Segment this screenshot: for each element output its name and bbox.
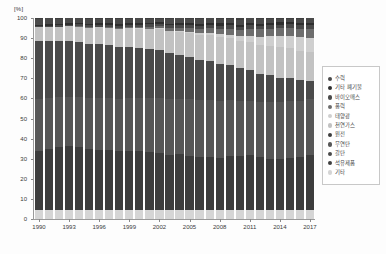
- legend-swatch-icon: [328, 142, 332, 146]
- legend-item-label: 갈탄: [335, 151, 345, 156]
- legend-item[interactable]: 풍력: [328, 102, 375, 111]
- x-axis-tick-label: 2017: [295, 224, 325, 230]
- legend-swatch-icon: [328, 170, 332, 174]
- x-axis-tick-mark: [39, 219, 40, 222]
- legend-item-label: 석유제품: [335, 161, 355, 166]
- legend-swatch-icon: [328, 161, 332, 165]
- legend-item-label: 원전: [335, 132, 345, 137]
- legend-item[interactable]: 바이오매스: [328, 93, 375, 102]
- x-axis-tick-mark: [69, 219, 70, 222]
- legend-swatch-icon: [328, 133, 332, 137]
- x-axis-tick-mark: [250, 219, 251, 222]
- x-axis-tick-label: 2005: [175, 224, 205, 230]
- x-axis-tick-mark: [310, 219, 311, 222]
- legend-swatch-icon: [328, 114, 332, 118]
- legend-item[interactable]: 기타 폐기물: [328, 83, 375, 92]
- x-axis-tick-mark: [99, 219, 100, 222]
- legend-swatch-icon: [328, 86, 332, 90]
- x-axis-tick-label: 2014: [265, 224, 295, 230]
- x-axis-tick-label: 1996: [84, 224, 114, 230]
- x-axis-tick-label: 1990: [24, 224, 54, 230]
- chart-figure: [%] 0102030405060708090100 1990199319961…: [0, 0, 386, 254]
- legend-item-label: 태양광: [335, 114, 350, 119]
- legend-item[interactable]: 천연가스: [328, 121, 375, 130]
- x-axis-tick-label: 1999: [114, 224, 144, 230]
- x-axis-tick-label: 2008: [205, 224, 235, 230]
- legend-item-label: 풍력: [335, 104, 345, 109]
- legend-item-label: 기타 폐기물: [335, 85, 362, 90]
- legend-item[interactable]: 태양광: [328, 112, 375, 121]
- x-axis-tick-label: 2011: [235, 224, 265, 230]
- legend-item-label: 기타: [335, 170, 345, 175]
- x-axis-tick-mark: [129, 219, 130, 222]
- legend-item[interactable]: 무연탄: [328, 140, 375, 149]
- legend-swatch-icon: [328, 77, 332, 81]
- legend-item-label: 무연탄: [335, 142, 350, 147]
- legend-item[interactable]: 수력: [328, 74, 375, 83]
- legend-swatch-icon: [328, 123, 332, 127]
- legend-item[interactable]: 갈탄: [328, 149, 375, 158]
- legend-swatch-icon: [328, 95, 332, 99]
- legend-item-label: 수력: [335, 76, 345, 81]
- x-axis-tick-mark: [159, 219, 160, 222]
- legend-item[interactable]: 기타: [328, 168, 375, 177]
- x-axis-tick-mark: [280, 219, 281, 222]
- legend-item[interactable]: 석유제품: [328, 159, 375, 168]
- legend-item-label: 천연가스: [335, 123, 355, 128]
- legend-swatch-icon: [328, 152, 332, 156]
- legend-item[interactable]: 원전: [328, 130, 375, 139]
- x-axis-tick-mark: [190, 219, 191, 222]
- x-axis-tick-label: 2002: [144, 224, 174, 230]
- x-axis-tick-mark: [220, 219, 221, 222]
- x-axis-tick-label: 1993: [54, 224, 84, 230]
- chart-legend: 수력기타 폐기물바이오매스풍력태양광천연가스원전무연탄갈탄석유제품기타: [322, 66, 380, 185]
- legend-swatch-icon: [328, 105, 332, 109]
- legend-item-label: 바이오매스: [335, 95, 360, 100]
